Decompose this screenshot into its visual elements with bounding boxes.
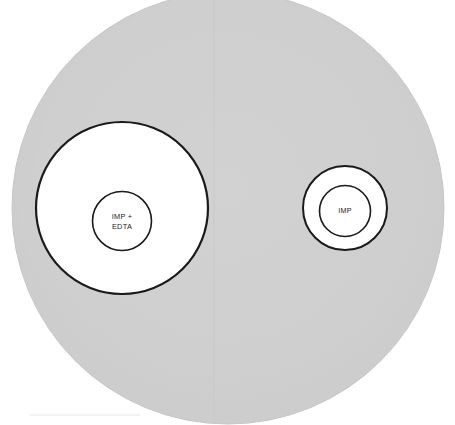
imp-edta-disc-group: IMP + EDTA: [36, 122, 208, 294]
disc-label-imp-edta-line1: IMP +: [112, 212, 133, 221]
scan-artifact: [30, 414, 140, 416]
plate-diagram: IMP + EDTA IMP: [0, 0, 455, 425]
disc-label-imp-edta-line2: EDTA: [112, 222, 132, 231]
plate-figure: IMP + EDTA IMP: [0, 0, 455, 425]
imp-disc-group: IMP: [303, 166, 387, 250]
antibiotic-disc-imp-edta: [93, 192, 152, 251]
disc-label-imp: IMP: [338, 206, 352, 215]
